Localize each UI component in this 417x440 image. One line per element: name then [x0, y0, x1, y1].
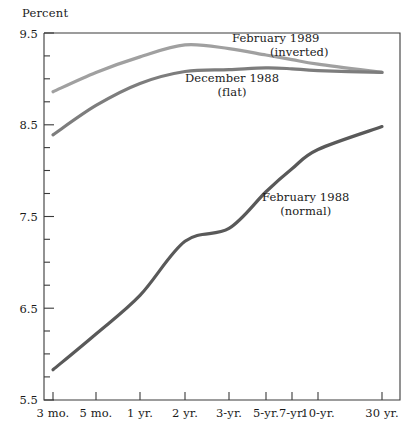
annotation-label-december-1988: December 1988 [185, 71, 279, 85]
x-axis-ticks [53, 392, 382, 400]
annotation-note-december-1988: (flat) [185, 85, 279, 99]
series-line-february-1988 [53, 127, 382, 370]
annotation-note-february-1989: (inverted) [270, 45, 329, 59]
annotation-note-february-1988: (normal) [262, 204, 350, 218]
annotation-february-1988: February 1988 (normal) [262, 190, 350, 218]
annotation-february-1989: February 1989 (inverted) [232, 31, 329, 59]
plot-area [0, 0, 417, 440]
annotation-december-1988: December 1988 (flat) [185, 71, 279, 99]
annotation-label-february-1989: February 1989 [232, 31, 320, 45]
yield-curve-chart: Percent 9.5 8.5 7.5 6.5 5.5 3 mo. 5 mo. … [0, 0, 417, 440]
y-axis-ticks [44, 33, 54, 400]
annotation-label-february-1988: February 1988 [262, 190, 350, 204]
